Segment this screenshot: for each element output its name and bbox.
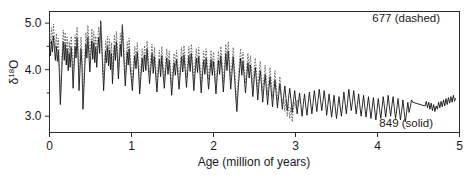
x-axis-title: Age (million of years)	[198, 155, 311, 169]
y-tick-label: 3.0	[25, 109, 42, 123]
x-tick-label: 1	[128, 139, 135, 153]
x-tick-label: 0	[46, 139, 53, 153]
y-tick-label: 4.0	[25, 63, 42, 77]
x-tick-label: 4	[374, 139, 381, 153]
annotation-849-solid: 849 (solid)	[379, 117, 433, 129]
y-axis-title-element: O	[7, 60, 21, 69]
y-tick-label: 5.0	[25, 16, 42, 30]
x-tick-label: 5	[456, 139, 463, 153]
chart-background	[0, 0, 474, 178]
x-tick-label: 3	[292, 139, 299, 153]
delta-18-o-age-chart: 3.04.05.0 012345 849 (solid)677 (dashed)…	[0, 0, 474, 178]
annotation-677-dashed: 677 (dashed)	[372, 12, 440, 24]
x-tick-label: 2	[210, 139, 217, 153]
